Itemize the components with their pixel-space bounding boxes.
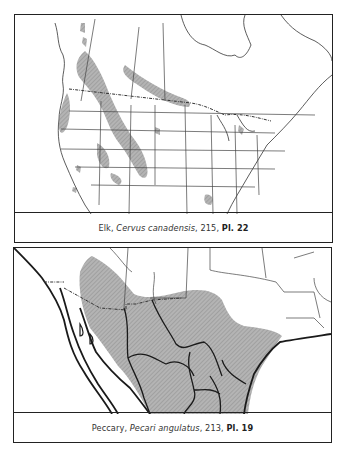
peccary-caption: Peccary, Pecari angulatus, 213, Pl. 19 — [14, 412, 331, 442]
peccary-common-name: Peccary — [92, 423, 125, 433]
elk-caption: Elk, Cervus canadensis, 215, Pl. 22 — [15, 212, 332, 242]
peccary-plate-ref: Pl. 19 — [226, 423, 253, 433]
elk-scientific-name: Cervus canadensis — [116, 223, 195, 233]
elk-range-map-plate: Elk, Cervus canadensis, 215, Pl. 22 — [14, 14, 333, 243]
elk-common-name: Elk — [98, 223, 111, 233]
peccary-scientific-name: Pecari angulatus — [130, 423, 200, 433]
elk-range-areas — [59, 23, 244, 205]
elk-page-number: 215 — [200, 223, 216, 233]
peccary-range-map — [14, 248, 331, 414]
elk-range-map — [15, 15, 332, 214]
peccary-page-number: 213 — [205, 423, 221, 433]
peccary-range-map-plate: Peccary, Pecari angulatus, 213, Pl. 19 — [13, 247, 332, 443]
elk-plate-ref: Pl. 22 — [222, 223, 249, 233]
elk-map-boundaries — [55, 15, 332, 214]
peccary-range-area — [79, 256, 282, 414]
